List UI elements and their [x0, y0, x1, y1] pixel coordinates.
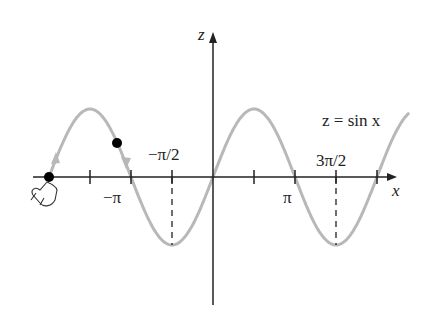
z-axis-arrow-icon [209, 32, 217, 43]
z-axis-label: z [197, 25, 205, 44]
start-dot [44, 172, 54, 182]
hand-pointer-icon [31, 182, 57, 206]
x-axis-arrow-icon [387, 173, 397, 181]
diagram-canvas: z x −π −π/2 π 3π/2 z = sin x [0, 0, 428, 322]
curve-label: z = sin x [322, 111, 381, 130]
moving-dot [112, 138, 122, 148]
tick-label-pi: π [283, 188, 292, 207]
x-axis-label: x [391, 181, 400, 200]
tick-label-three-half-pi: 3π/2 [316, 151, 346, 170]
tick-label-neg-half-pi: −π/2 [148, 145, 179, 164]
curve-arrow-down-icon [121, 157, 131, 169]
tick-label-neg-pi: −π [103, 188, 122, 207]
sine-diagram: z x −π −π/2 π 3π/2 z = sin x [0, 0, 428, 322]
